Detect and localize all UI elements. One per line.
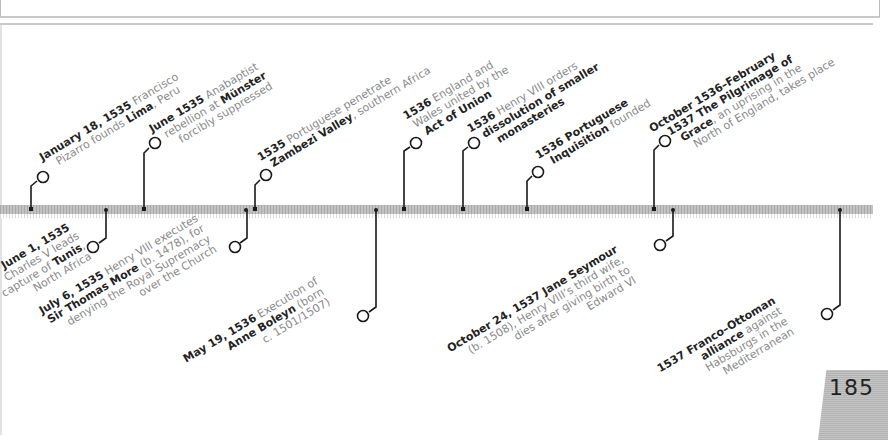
pin-circle-icon xyxy=(230,242,241,253)
pin-1536-dissolution xyxy=(463,147,468,210)
pin-1536-inquisition xyxy=(527,176,532,210)
pin-1536-union xyxy=(404,147,410,210)
pin-june-1535 xyxy=(144,148,149,210)
pin-circle-icon xyxy=(822,309,833,320)
pin-circle-icon xyxy=(533,167,544,178)
pin-july6-1535 xyxy=(240,210,247,243)
pin-june1-1535 xyxy=(99,210,106,243)
pin-may19-1536 xyxy=(369,210,376,312)
pin-jan-1535 xyxy=(31,181,37,210)
pin-1535-zambezi xyxy=(255,180,260,210)
pin-1537-franco xyxy=(833,210,840,310)
pin-oct-1536 xyxy=(654,145,659,210)
pin-circle-icon xyxy=(38,172,49,183)
pin-circle-icon xyxy=(655,240,666,251)
page-number: 185 xyxy=(829,375,874,400)
pin-circle-icon xyxy=(358,311,369,322)
pin-oct24-1537 xyxy=(666,210,673,241)
pin-circle-icon xyxy=(88,242,99,253)
